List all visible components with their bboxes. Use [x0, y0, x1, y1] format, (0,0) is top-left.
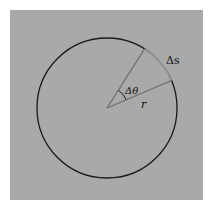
angle-label: Δθ — [124, 85, 138, 96]
radius-line-lower — [107, 81, 172, 109]
circle-diagram: Δs Δθ r — [0, 0, 210, 214]
radius-label: r — [141, 98, 147, 111]
arc-length-label: Δs — [166, 54, 180, 67]
